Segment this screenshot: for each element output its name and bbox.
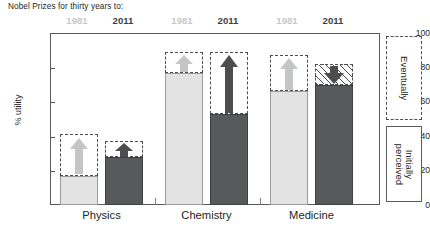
year-header-physics-1981: 1981	[57, 15, 97, 26]
year-header-chemistry-1981: 1981	[162, 15, 202, 26]
group-separator-2	[260, 198, 261, 205]
legend-eventually-label: Eventually	[399, 56, 409, 100]
plot-right-border	[379, 33, 380, 205]
bar-physics-2011	[105, 157, 143, 205]
bar-medicine-2011	[315, 85, 353, 205]
y-axis-label: % utility	[13, 80, 23, 140]
group-separator-1	[155, 198, 156, 205]
year-header-medicine-1981: 1981	[267, 15, 307, 26]
arrow-up-medicine-1981	[280, 58, 298, 90]
legend-initially-perceived: Initially perceived	[386, 126, 422, 202]
legend-initially-perceived-label: Initially perceived	[394, 143, 415, 185]
legend-initial-line2: perceived	[394, 143, 405, 185]
year-header-chemistry-2011: 2011	[208, 15, 248, 26]
arrow-up-chemistry-2011	[220, 55, 238, 113]
y-tick-mark-20	[50, 171, 55, 172]
category-label-medicine: Medicine	[262, 209, 361, 221]
bar-medicine-1981	[270, 91, 308, 205]
bar-physics-1981	[60, 176, 98, 205]
chart-root: Nobel Prizes for thirty years to: 1981 2…	[0, 0, 430, 242]
y-tick-mark-80	[50, 68, 55, 69]
y-tick-mark-40	[50, 137, 55, 138]
legend-initial-line1: Initially	[404, 149, 415, 178]
arrow-up-physics-1981	[70, 138, 88, 174]
category-label-physics: Physics	[52, 209, 151, 221]
y-tick-mark-60	[50, 102, 55, 103]
bar-chemistry-1981	[165, 73, 203, 205]
arrow-up-chemistry-1981	[175, 55, 193, 72]
year-header-physics-2011: 2011	[103, 15, 143, 26]
arrow-down-medicine-2011	[324, 66, 344, 84]
bar-chemistry-2011	[210, 114, 248, 205]
arrow-up-physics-2011	[115, 143, 133, 157]
legend-eventually: Eventually	[386, 36, 422, 120]
chart-title: Nobel Prizes for thirty years to:	[8, 2, 123, 11]
year-header-medicine-2011: 2011	[313, 15, 353, 26]
category-label-chemistry: Chemistry	[157, 209, 256, 221]
